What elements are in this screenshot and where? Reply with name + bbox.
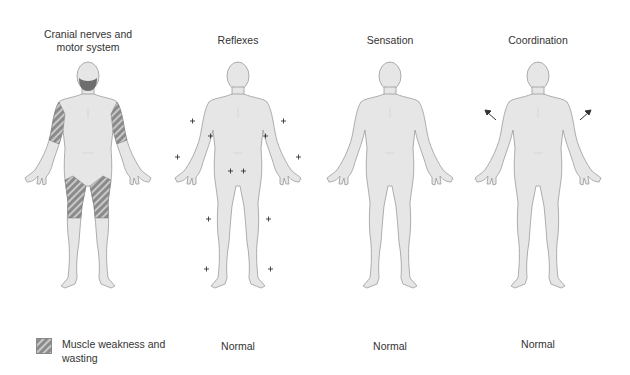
- title-line-1: Cranial nerves and: [8, 28, 168, 41]
- panel-title-sensation: Sensation: [315, 34, 465, 47]
- plus-biceps-left-icon: [190, 119, 195, 124]
- title-line-2: motor system: [8, 41, 168, 54]
- plus-ankle-left-icon: [204, 267, 209, 272]
- body-figure-cranial-motor: [13, 58, 163, 293]
- plus-supinator-left-icon: [175, 155, 180, 160]
- legend: Muscle weakness and wasting: [36, 337, 192, 365]
- status-sensation: Normal: [315, 340, 465, 352]
- panel-title-reflexes: Reflexes: [163, 34, 313, 47]
- status-coordination: Normal: [463, 338, 613, 350]
- plus-biceps-right-icon: [281, 119, 286, 124]
- body-figure-sensation: [315, 58, 465, 293]
- panel-title-cranial-motor: Cranial nerves and motor system: [8, 28, 168, 54]
- plus-knee-right-icon: [266, 217, 271, 222]
- body-figure-coordination: [463, 58, 613, 293]
- body-figure-reflexes: [163, 58, 313, 293]
- panel-title-coordination: Coordination: [463, 34, 613, 47]
- plus-supinator-right-icon: [296, 155, 301, 160]
- hatched-swatch-icon: [36, 338, 52, 354]
- legend-label: Muscle weakness and wasting: [62, 337, 192, 365]
- plus-knee-left-icon: [206, 217, 211, 222]
- plus-ankle-right-icon: [268, 267, 273, 272]
